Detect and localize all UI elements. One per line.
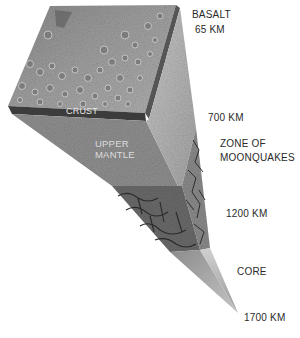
depth-1200-label: 1200 KM	[226, 208, 267, 220]
moon-interior-diagram: CRUST UPPER MANTLE BASALT 65 KM 700 KM Z…	[0, 0, 300, 338]
moonquakes-label-line2: MOONQUAKES	[220, 152, 295, 164]
depth-700-label: 700 KM	[208, 112, 244, 124]
crust-label: CRUST	[66, 106, 98, 117]
depth-1700-label: 1700 KM	[244, 312, 285, 324]
wedge-illustration	[0, 0, 300, 338]
basalt-label: BASALT	[192, 9, 231, 21]
core-label: CORE	[237, 266, 267, 278]
upper-mantle-label-line1: UPPER	[95, 138, 129, 149]
moonquakes-label-line1: ZONE OF	[220, 138, 266, 150]
basalt-depth-label: 65 KM	[195, 24, 225, 36]
core-front	[170, 250, 238, 313]
upper-mantle-label-line2: MANTLE	[95, 149, 135, 160]
